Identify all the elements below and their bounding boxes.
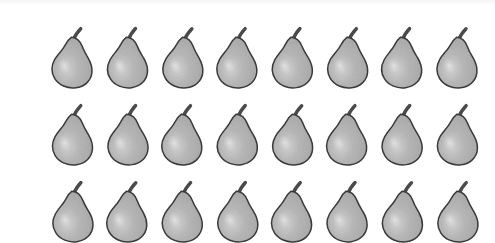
pear-item[interactable] bbox=[375, 99, 427, 167]
pear-icon bbox=[155, 176, 207, 243]
pear-item[interactable] bbox=[320, 99, 372, 167]
pear-item[interactable] bbox=[45, 99, 97, 167]
pear-icon bbox=[430, 99, 482, 167]
pear-item[interactable] bbox=[100, 99, 152, 167]
pear-icon bbox=[45, 99, 97, 167]
pear-icon bbox=[155, 22, 207, 90]
pear-item[interactable] bbox=[210, 22, 262, 90]
pear-icon bbox=[375, 99, 427, 167]
pear-item[interactable] bbox=[320, 22, 372, 90]
pear-item[interactable] bbox=[430, 99, 482, 167]
pear-icon bbox=[45, 176, 97, 243]
pear-item[interactable] bbox=[155, 22, 207, 90]
pear-item[interactable] bbox=[100, 176, 152, 243]
pear-icon bbox=[210, 176, 262, 243]
pear-item[interactable] bbox=[155, 99, 207, 167]
pear-item[interactable] bbox=[265, 176, 317, 243]
pear-grid bbox=[0, 0, 495, 243]
pear-icon bbox=[100, 99, 152, 167]
pear-icon bbox=[265, 22, 317, 90]
pear-item[interactable] bbox=[375, 22, 427, 90]
pear-icon bbox=[320, 176, 372, 243]
pear-icon bbox=[375, 22, 427, 90]
pear-item[interactable] bbox=[210, 99, 262, 167]
pear-item[interactable] bbox=[320, 176, 372, 243]
worksheet-canvas bbox=[0, 0, 495, 243]
pear-icon bbox=[210, 99, 262, 167]
pear-icon bbox=[430, 22, 482, 90]
pear-icon bbox=[265, 176, 317, 243]
pear-icon bbox=[430, 176, 482, 243]
pear-item[interactable] bbox=[45, 22, 97, 90]
pear-item[interactable] bbox=[265, 22, 317, 90]
pear-icon bbox=[155, 99, 207, 167]
pear-item[interactable] bbox=[210, 176, 262, 243]
pear-icon bbox=[320, 22, 372, 90]
pear-icon bbox=[375, 176, 427, 243]
pear-item[interactable] bbox=[155, 176, 207, 243]
pear-icon bbox=[265, 99, 317, 167]
pear-item[interactable] bbox=[45, 176, 97, 243]
pear-icon bbox=[320, 99, 372, 167]
pear-item[interactable] bbox=[430, 176, 482, 243]
pear-icon bbox=[100, 176, 152, 243]
pear-icon bbox=[210, 22, 262, 90]
pear-item[interactable] bbox=[430, 22, 482, 90]
pear-item[interactable] bbox=[375, 176, 427, 243]
pear-icon bbox=[100, 22, 152, 90]
pear-item[interactable] bbox=[265, 99, 317, 167]
pear-item[interactable] bbox=[100, 22, 152, 90]
pear-icon bbox=[45, 22, 97, 90]
